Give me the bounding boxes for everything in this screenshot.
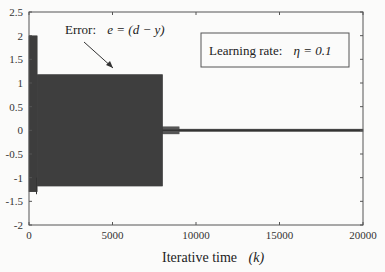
error-annotation: Error: e = (d − y): [65, 22, 165, 68]
x-axis-title: Iterative time (k): [162, 250, 264, 266]
svg-text:Error: e = (d − y): Error: e = (d − y): [65, 22, 165, 37]
y-tick-label: -2: [14, 219, 23, 231]
error-chart: -2-1.5-1-0.500.511.522.5 050001000015000…: [0, 0, 385, 272]
x-tick-label: 20000: [349, 229, 377, 241]
y-tick-labels: -2-1.5-1-0.500.511.522.5: [6, 6, 24, 231]
learning-rate-box: Learning rate: η = 0.1: [201, 33, 349, 67]
y-tick-label: 1.5: [9, 53, 23, 65]
y-tick-label: 1: [18, 77, 24, 89]
y-tick-label: -1: [14, 172, 23, 184]
x-tick-label: 10000: [182, 229, 210, 241]
svg-text:Learning rate: η = 0.1: Learning rate: η = 0.1: [209, 43, 332, 58]
x-tick-label: 0: [26, 229, 32, 241]
x-tick-labels: 05000100001500020000: [26, 229, 377, 241]
y-tick-label: 2: [18, 30, 24, 42]
y-tick-label: -1.5: [6, 195, 24, 207]
y-tick-label: 2.5: [9, 6, 23, 18]
y-tick-label: 0: [18, 124, 24, 136]
x-tick-label: 15000: [266, 229, 294, 241]
x-tick-label: 5000: [102, 229, 125, 241]
y-tick-label: -0.5: [6, 148, 24, 160]
y-tick-label: 0.5: [9, 101, 23, 113]
